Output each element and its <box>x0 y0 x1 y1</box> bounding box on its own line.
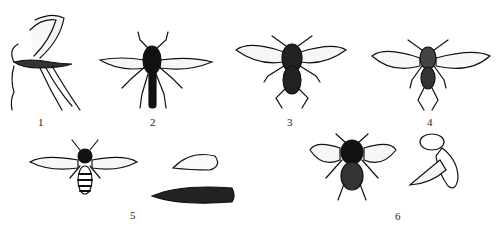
specimen-5-larva-icon <box>152 187 234 203</box>
label-1: 1 <box>38 116 44 128</box>
insect-figure: 1 2 3 4 5 6 <box>0 0 499 231</box>
label-3: 3 <box>287 116 293 128</box>
insect-drawings <box>0 0 499 231</box>
label-4: 4 <box>427 116 433 128</box>
label-5: 5 <box>130 209 136 221</box>
label-6: 6 <box>395 210 401 222</box>
specimen-5-adult-icon <box>30 140 137 194</box>
label-2: 2 <box>150 116 156 128</box>
specimen-1-icon <box>11 15 80 110</box>
specimen-2-icon <box>100 32 212 108</box>
specimen-3-icon <box>236 36 346 108</box>
specimen-5-pupa-icon <box>173 155 218 171</box>
specimen-6-dorsal-icon <box>310 134 396 200</box>
specimen-6-lateral-icon <box>410 134 458 188</box>
specimen-4-icon <box>372 40 490 110</box>
